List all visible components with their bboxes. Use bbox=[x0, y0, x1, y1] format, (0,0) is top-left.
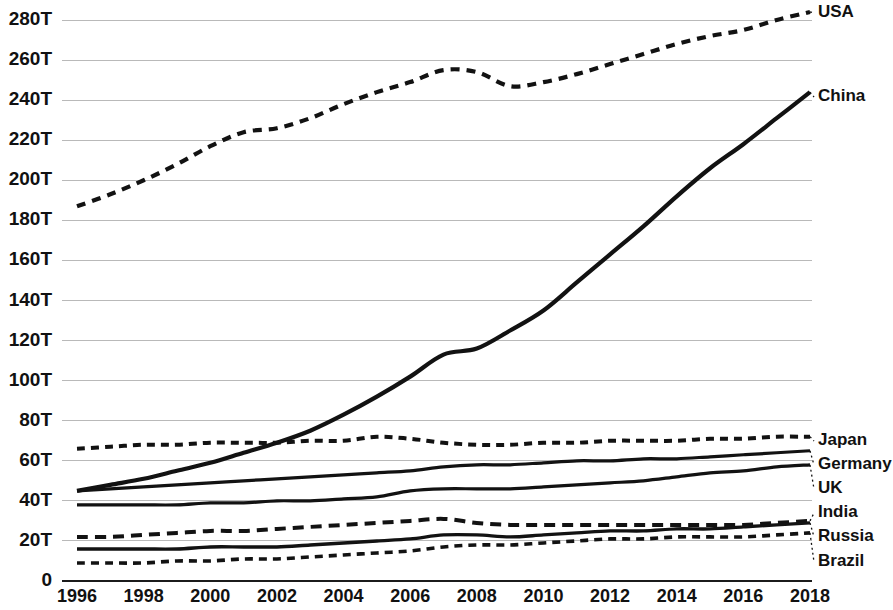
series-label-germany: Germany bbox=[818, 454, 892, 473]
series-label-india: India bbox=[818, 502, 858, 521]
y-tick-label-100: 100T bbox=[9, 369, 53, 390]
y-tick-label-280: 280T bbox=[9, 8, 53, 29]
leader-line-usa bbox=[810, 12, 814, 13]
series-label-uk: UK bbox=[818, 478, 843, 497]
gridlines bbox=[62, 20, 812, 541]
chart-page: 020T40T60T80T100T120T140T160T180T200T220… bbox=[0, 0, 893, 610]
x-axis-tick-labels: 1996199820002002200420062008201020122014… bbox=[57, 586, 830, 606]
y-tick-label-260: 260T bbox=[9, 48, 53, 69]
y-tick-label-160: 160T bbox=[9, 248, 53, 269]
y-tick-label-120: 120T bbox=[9, 329, 53, 350]
x-tick-label-2014: 2014 bbox=[657, 586, 697, 606]
x-tick-label-2018: 2018 bbox=[790, 586, 830, 606]
x-tick-label-2008: 2008 bbox=[457, 586, 497, 606]
y-tick-label-240: 240T bbox=[9, 88, 53, 109]
series-line-japan bbox=[77, 437, 810, 449]
x-tick-label-2016: 2016 bbox=[723, 586, 763, 606]
x-tick-label-1996: 1996 bbox=[57, 586, 97, 606]
series-line-germany bbox=[77, 451, 810, 491]
series-label-china: China bbox=[818, 86, 866, 105]
y-tick-label-0: 0 bbox=[41, 569, 52, 590]
y-tick-label-20: 20T bbox=[19, 529, 52, 550]
leader-line-germany bbox=[810, 451, 814, 465]
y-tick-label-220: 220T bbox=[9, 128, 53, 149]
y-axis-tick-labels: 020T40T60T80T100T120T140T160T180T200T220… bbox=[9, 8, 53, 590]
series-labels: USAChinaJapanGermanyUKIndiaRussiaBrazil bbox=[810, 2, 892, 570]
leader-line-india bbox=[810, 513, 814, 521]
series-label-usa: USA bbox=[818, 2, 854, 21]
x-tick-label-2004: 2004 bbox=[324, 586, 364, 606]
series-line-china bbox=[77, 92, 810, 491]
x-tick-label-2000: 2000 bbox=[190, 586, 230, 606]
leader-line-brazil bbox=[810, 533, 814, 562]
leader-line-china bbox=[810, 92, 814, 97]
x-tick-label-2006: 2006 bbox=[390, 586, 430, 606]
leader-line-uk bbox=[810, 465, 814, 489]
y-tick-label-60: 60T bbox=[19, 449, 52, 470]
x-tick-label-2002: 2002 bbox=[257, 586, 297, 606]
series-label-russia: Russia bbox=[818, 526, 874, 545]
y-tick-label-140: 140T bbox=[9, 289, 53, 310]
leader-line-japan bbox=[810, 437, 814, 441]
series-label-brazil: Brazil bbox=[818, 551, 864, 570]
series-lines bbox=[77, 12, 810, 563]
y-tick-label-180: 180T bbox=[9, 208, 53, 229]
x-tick-label-1998: 1998 bbox=[124, 586, 164, 606]
line-chart: 020T40T60T80T100T120T140T160T180T200T220… bbox=[0, 0, 893, 610]
y-tick-label-80: 80T bbox=[19, 409, 52, 430]
y-tick-label-40: 40T bbox=[19, 489, 52, 510]
leader-line-russia bbox=[810, 523, 814, 537]
series-label-japan: Japan bbox=[818, 430, 867, 449]
y-tick-label-200: 200T bbox=[9, 168, 53, 189]
x-tick-label-2010: 2010 bbox=[523, 586, 563, 606]
x-tick-label-2012: 2012 bbox=[590, 586, 630, 606]
